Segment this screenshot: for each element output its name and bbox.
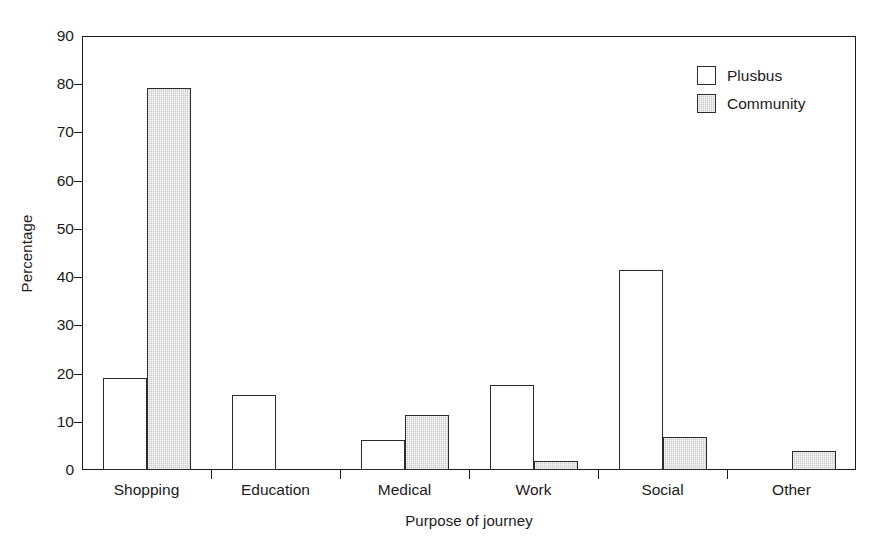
y-axis-tick-mark [74, 422, 82, 423]
x-axis-tick-mark [727, 470, 728, 479]
y-axis-tick-label: 20 [34, 366, 74, 382]
bar-group [340, 36, 469, 470]
bar-group [82, 36, 211, 470]
y-axis-tick-mark [74, 325, 82, 326]
x-axis-tick-mark [211, 470, 212, 479]
y-axis-tick-mark [74, 374, 82, 375]
x-axis-tick-mark [598, 470, 599, 479]
x-axis-title: Purpose of journey [82, 512, 856, 529]
legend-swatch-icon [697, 66, 716, 85]
y-axis-tick-label: 70 [34, 125, 74, 141]
legend-label: Plusbus [727, 66, 782, 85]
bar-plusbus-shopping [103, 378, 147, 470]
y-axis-tick-mark [74, 277, 82, 278]
y-axis-tick-label: 50 [34, 221, 74, 237]
legend-label: Community [727, 94, 805, 113]
bar-group [469, 36, 598, 470]
y-axis-tick-label: 30 [34, 318, 74, 334]
x-axis-tick-label: Work [516, 479, 552, 501]
legend-swatch-icon [697, 94, 716, 113]
bar-community-social [663, 437, 707, 470]
bar-plusbus-education [232, 395, 276, 470]
y-axis-tick-mark [74, 229, 82, 230]
y-axis-tick-label: 0 [34, 462, 74, 478]
x-axis-tick-label: Other [772, 479, 811, 501]
y-axis-tick-label: 40 [34, 269, 74, 285]
bar-community-work [534, 461, 578, 470]
x-axis-tick-marks [82, 470, 856, 479]
y-axis-tick-labels: 9080706050403020100 [34, 36, 74, 470]
legend-entry-plusbus: Plusbus [697, 66, 805, 85]
bar-group [211, 36, 340, 470]
x-axis-tick-label: Education [241, 479, 310, 501]
y-axis-tick-label: 90 [34, 28, 74, 44]
legend: PlusbusCommunity [697, 66, 805, 113]
bar-community-other [792, 451, 836, 470]
bar-community-shopping [147, 88, 191, 470]
bar-plusbus-work [490, 385, 534, 470]
x-axis-tick-label: Shopping [114, 479, 180, 501]
bar-plusbus-medical [361, 440, 405, 470]
y-axis-tick-label: 80 [34, 76, 74, 92]
x-axis-tick-label: Medical [378, 479, 431, 501]
x-axis-tick-mark [340, 470, 341, 479]
y-axis-tick-mark [74, 181, 82, 182]
x-axis-tick-labels: ShoppingEducationMedicalWorkSocialOther [82, 479, 856, 505]
x-axis-tick-label: Social [641, 479, 683, 501]
bar-plusbus-social [619, 270, 663, 470]
y-axis-tick-mark [74, 132, 82, 133]
legend-entry-community: Community [697, 94, 805, 113]
y-axis-tick-label: 60 [34, 173, 74, 189]
x-axis-tick-mark [469, 470, 470, 479]
y-axis-tick-mark [74, 84, 82, 85]
bar-community-medical [405, 415, 449, 470]
y-axis-tick-label: 10 [34, 414, 74, 430]
bar-chart: Percentage 9080706050403020100 PlusbusCo… [0, 0, 875, 556]
